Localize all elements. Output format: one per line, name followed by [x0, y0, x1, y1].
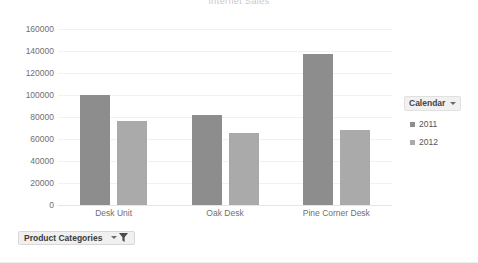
plot-area[interactable]	[58, 29, 392, 205]
bar-group[interactable]	[303, 29, 370, 205]
chevron-down-icon[interactable]	[450, 102, 456, 105]
x-axis-tick-label: Oak Desk	[206, 208, 243, 218]
legend-swatch	[410, 122, 415, 127]
y-axis-tick-label: 100000	[26, 90, 54, 100]
x-axis-tick-label: Desk Unit	[95, 208, 132, 218]
y-axis-tick-label: 20000	[30, 178, 54, 188]
gridline	[58, 205, 392, 206]
legend-swatch	[410, 140, 415, 145]
bar[interactable]	[117, 121, 147, 205]
legend-item[interactable]: 2011	[404, 119, 474, 129]
bar[interactable]	[340, 130, 370, 205]
y-axis-tick-label: 0	[49, 200, 54, 210]
bar-group[interactable]	[80, 29, 147, 205]
x-axis-tick-label: Pine Corner Desk	[303, 208, 370, 218]
y-axis-tick-label: 160000	[26, 24, 54, 34]
bar[interactable]	[303, 54, 333, 205]
product-categories-slicer-button[interactable]: Product Categories	[18, 231, 135, 245]
bar-group[interactable]	[192, 29, 259, 205]
bar[interactable]	[192, 115, 222, 205]
y-axis: 0200004000060000800001000001200001400001…	[0, 29, 54, 205]
funnel-icon[interactable]	[118, 232, 129, 243]
legend-item[interactable]: 2012	[404, 137, 474, 147]
slicer-icons[interactable]	[108, 232, 129, 243]
slicer-label: Product Categories	[24, 233, 102, 243]
chart-container[interactable]: Internet Sales 0200004000060000800001000…	[0, 0, 478, 263]
legend-item-label: 2012	[419, 137, 438, 147]
y-axis-tick-label: 140000	[26, 46, 54, 56]
legend-item-label: 2011	[419, 119, 437, 129]
y-axis-tick-label: 120000	[26, 68, 54, 78]
bar[interactable]	[80, 95, 110, 205]
x-axis: Desk UnitOak DeskPine Corner Desk	[58, 208, 392, 222]
bar[interactable]	[229, 133, 259, 205]
y-axis-tick-label: 40000	[30, 156, 54, 166]
y-axis-tick-label: 80000	[30, 112, 54, 122]
legend-items: 20112012	[404, 119, 474, 147]
legend-header-button[interactable]: Calendar	[404, 96, 461, 111]
chart-title: Internet Sales	[0, 0, 478, 5]
chevron-down-icon[interactable]	[111, 236, 117, 239]
y-axis-tick-label: 60000	[30, 134, 54, 144]
legend-title: Calendar	[409, 98, 445, 108]
legend[interactable]: Calendar 20112012	[404, 96, 474, 147]
